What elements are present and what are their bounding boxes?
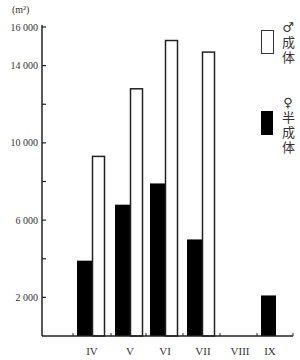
female-symbol-icon: ♀ bbox=[281, 95, 295, 110]
bar-female-subadult bbox=[187, 239, 202, 336]
bars bbox=[77, 41, 276, 336]
legend-char: 体 bbox=[281, 50, 295, 65]
bar-male-adult bbox=[93, 156, 105, 336]
y-tick-label: 10 000 bbox=[11, 137, 39, 148]
bar-chart: (m²) 2 0006 00010 00014 00016 000 IVVVIV… bbox=[0, 0, 300, 360]
y-tick-label: 14 000 bbox=[11, 60, 39, 71]
male-symbol-icon: ♂ bbox=[281, 20, 295, 35]
x-category-label: IX bbox=[264, 345, 276, 357]
y-tick-label: 2 000 bbox=[16, 292, 39, 303]
bar-female-subadult bbox=[115, 205, 130, 336]
x-category-label: VIII bbox=[231, 345, 250, 357]
legend-swatch-female bbox=[261, 111, 273, 135]
bar-male-adult bbox=[166, 41, 178, 336]
bar-female-subadult bbox=[150, 183, 165, 336]
legend-char: 体 bbox=[281, 140, 295, 155]
legend-char: 半 bbox=[281, 110, 295, 125]
x-category-label: VI bbox=[159, 345, 171, 357]
legend-swatch-male bbox=[261, 30, 274, 54]
y-tick-label: 6 000 bbox=[16, 215, 39, 226]
bar-male-adult bbox=[203, 52, 215, 336]
bar-male-adult bbox=[131, 89, 143, 336]
y-tick-label: 16 000 bbox=[11, 22, 39, 33]
x-category-label: IV bbox=[86, 345, 98, 357]
bar-female-subadult bbox=[261, 295, 276, 336]
y-axis: 2 0006 00010 00014 00016 000 bbox=[11, 22, 47, 337]
x-category-label: V bbox=[126, 345, 134, 357]
legend-label-female: ♀ 半 成 体 bbox=[281, 95, 295, 155]
legend-char: 成 bbox=[281, 35, 295, 50]
x-category-label: VII bbox=[195, 345, 211, 357]
bar-female-subadult bbox=[77, 261, 92, 336]
y-unit-label: (m²) bbox=[12, 4, 29, 16]
legend-label-male: ♂ 成 体 bbox=[281, 20, 295, 65]
legend-char: 成 bbox=[281, 125, 295, 140]
x-axis: IVVVIVIIVIIIIX bbox=[42, 333, 293, 357]
